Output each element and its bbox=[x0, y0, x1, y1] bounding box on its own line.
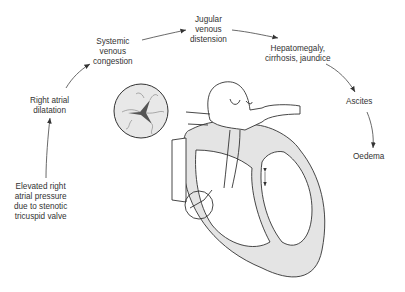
step-elevated: Elevated right atrial pressure due to st… bbox=[14, 182, 67, 222]
step-hepato-line: Hepatomegaly, bbox=[265, 44, 331, 54]
step-dilatation-line: dilatation bbox=[30, 106, 69, 116]
liver-inset-icon bbox=[114, 84, 168, 138]
arrow-elevated-to-dilatation bbox=[46, 118, 50, 178]
step-hepato: Hepatomegaly, cirrhosis, jaundice bbox=[265, 44, 331, 64]
step-oedema-line: Oedema bbox=[353, 152, 384, 162]
step-elevated-line: due to stenotic bbox=[14, 202, 67, 212]
step-elevated-line: tricuspid valve bbox=[14, 212, 67, 222]
step-congestion-line: Systemic bbox=[93, 37, 133, 47]
arrow-hepato-to-ascites bbox=[326, 64, 355, 92]
step-hepato-line: cirrhosis, jaundice bbox=[265, 54, 331, 64]
arrow-jugular-to-hepato bbox=[232, 30, 278, 38]
arrow-dilatation-to-congestion bbox=[66, 64, 90, 88]
step-jugular-line: distension bbox=[190, 35, 227, 45]
step-jugular: Jugular venous distension bbox=[190, 15, 227, 45]
step-dilatation-line: Right atrial bbox=[30, 96, 69, 106]
step-dilatation: Right atrial dilatation bbox=[30, 96, 69, 116]
step-ascites-line: Ascites bbox=[346, 97, 372, 107]
step-jugular-line: Jugular bbox=[190, 15, 227, 25]
step-congestion: Systemic venous congestion bbox=[93, 37, 133, 67]
heart-illustration-icon bbox=[172, 82, 325, 277]
step-oedema: Oedema bbox=[353, 152, 384, 162]
step-elevated-line: Elevated right bbox=[14, 182, 67, 192]
step-ascites: Ascites bbox=[346, 97, 372, 107]
step-jugular-line: venous bbox=[190, 25, 227, 35]
arrow-congestion-to-jugular bbox=[142, 30, 186, 40]
step-congestion-line: venous bbox=[93, 47, 133, 57]
step-congestion-line: congestion bbox=[93, 57, 133, 67]
arrow-ascites-to-oedema bbox=[367, 112, 373, 148]
step-elevated-line: atrial pressure bbox=[14, 192, 67, 202]
